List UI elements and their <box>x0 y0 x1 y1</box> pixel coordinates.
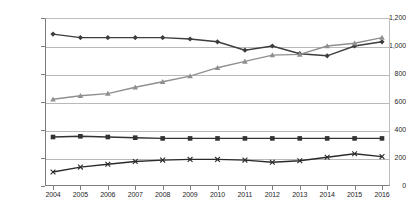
square-marker <box>215 136 220 141</box>
diamond-marker <box>187 36 192 41</box>
square-marker <box>380 136 385 141</box>
series-line <box>53 154 382 172</box>
diamond-marker <box>242 48 247 53</box>
diamond-marker <box>325 53 330 58</box>
series-square <box>51 134 385 141</box>
series-cross <box>51 151 385 174</box>
square-marker <box>243 136 248 141</box>
square-marker <box>352 136 357 141</box>
series-triangle <box>50 35 385 102</box>
diamond-marker <box>270 43 275 48</box>
square-marker <box>133 135 138 140</box>
diamond-marker <box>78 35 83 40</box>
diamond-marker <box>160 35 165 40</box>
diamond-marker <box>379 39 384 44</box>
diamond-marker <box>105 35 110 40</box>
square-marker <box>106 135 111 140</box>
series-layer <box>0 0 406 213</box>
square-marker <box>325 136 330 141</box>
line-chart: 1,2001,0008006004002000 2004200520062007… <box>0 0 406 213</box>
diamond-marker <box>133 35 138 40</box>
square-marker <box>270 136 275 141</box>
square-marker <box>160 136 165 141</box>
diamond-marker <box>50 32 55 37</box>
square-marker <box>51 135 56 140</box>
square-marker <box>188 136 193 141</box>
square-marker <box>78 134 83 139</box>
diamond-marker <box>215 39 220 44</box>
square-marker <box>297 136 302 141</box>
